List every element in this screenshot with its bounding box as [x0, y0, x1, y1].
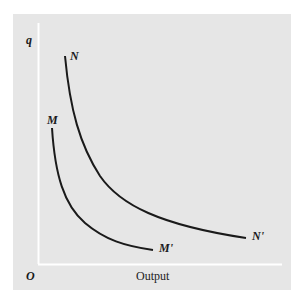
curve-m-end-label: M': [159, 242, 173, 254]
y-axis-label: q: [26, 34, 32, 46]
origin-label: O: [26, 270, 35, 282]
curve-n: [65, 56, 246, 238]
curve-n-start-label: N: [70, 50, 79, 62]
curve-m-start-label: M: [47, 114, 58, 126]
curve-m: [52, 128, 153, 250]
x-axis-label: Output: [136, 270, 169, 282]
chart-figure: q N M M' N' O Output: [0, 0, 304, 303]
plot-area: [0, 0, 304, 303]
curve-n-end-label: N': [252, 230, 264, 242]
